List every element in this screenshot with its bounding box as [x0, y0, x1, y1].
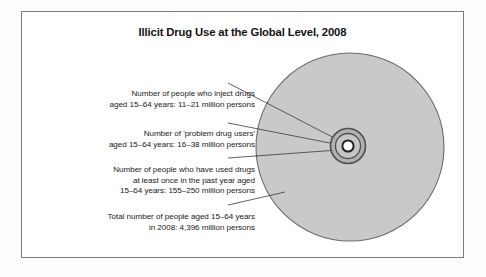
figure-root: Illicit Drug Use at the Global Level, 20…	[0, 0, 486, 277]
callout-label-injecting-drug-users: Number of people who inject drugs aged 1…	[60, 89, 255, 110]
callout-label-past-year-users: Number of people who have used drugs at …	[50, 165, 255, 197]
callout-label-total-population: Total number of people aged 15–64 years …	[48, 212, 255, 233]
page-title: Illicit Drug Use at the Global Level, 20…	[22, 26, 463, 38]
callout-label-problem-drug-users: Number of 'problem drug users' aged 15–6…	[60, 129, 255, 150]
figure-frame: Illicit Drug Use at the Global Level, 20…	[21, 11, 464, 258]
